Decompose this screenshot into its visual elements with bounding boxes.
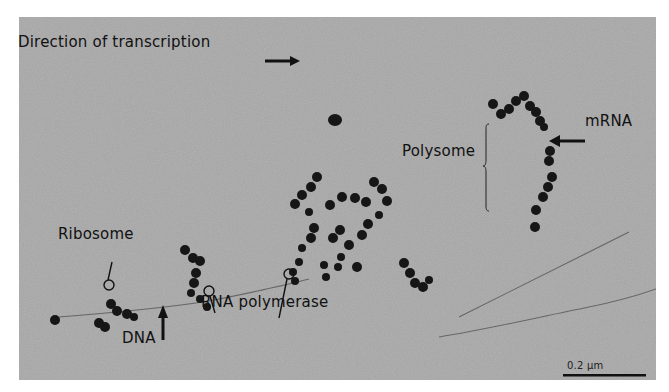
rna-polymerase-label: RNA polymerase — [201, 293, 328, 311]
arrow-left-icon — [549, 135, 585, 147]
scale-bar — [563, 374, 646, 377]
mrna-label: mRNA — [585, 112, 632, 130]
arrow-up-icon — [158, 305, 168, 340]
polysome-label: Polysome — [402, 142, 475, 160]
ribosome-pointer-icon — [104, 262, 114, 290]
direction-of-transcription-label: Direction of transcription — [18, 33, 210, 51]
annotation-layer — [0, 0, 669, 392]
curly-brace-icon — [483, 124, 489, 211]
dna-label: DNA — [122, 329, 156, 347]
arrow-right-icon — [265, 56, 300, 66]
ribosome-label: Ribosome — [58, 225, 134, 243]
scale-bar-label: 0.2 μm — [567, 360, 603, 371]
